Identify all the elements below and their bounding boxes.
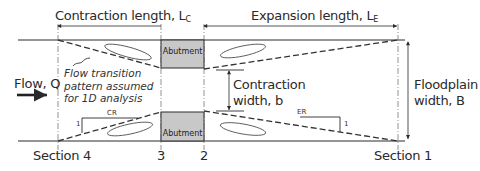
section-1-label: Section 1 <box>374 148 432 163</box>
eddy-ellipse <box>219 41 266 60</box>
section-2-label: 2 <box>200 148 208 163</box>
transition-note-line: Flow transition <box>64 67 154 80</box>
cr-slope-one: 1 <box>76 120 80 128</box>
contraction-length-label: Contraction length, LC <box>55 8 191 24</box>
expansion-length-text: Expansion length, L <box>251 8 373 23</box>
contraction-width-label: Contraction width, b <box>233 77 305 109</box>
er-slope-triangle <box>300 117 340 132</box>
eddy-ellipse <box>104 41 153 63</box>
floodplain-width-label: Floodplain width, B <box>414 77 478 109</box>
er-label: ER <box>297 108 306 116</box>
contraction-length-text: Contraction length, L <box>55 8 186 23</box>
floodplain-width-line: width, B <box>414 93 478 109</box>
transition-note-line: pattern assumed <box>64 80 154 93</box>
contraction-width-line: width, b <box>233 93 305 109</box>
flow-label: Flow, Q <box>14 76 60 91</box>
contraction-length-subscript: C <box>186 15 191 24</box>
expansion-length-subscript: E <box>373 15 378 24</box>
floodplain-width-line: Floodplain <box>414 77 478 93</box>
eddy-ellipse <box>106 119 153 138</box>
note-leader <box>73 58 90 66</box>
abutment-bottom-label: Abutment <box>161 129 204 138</box>
er-slope-one: 1 <box>344 120 348 128</box>
contraction-width-line: Contraction <box>233 77 305 93</box>
abutment-top-label: Abutment <box>161 47 204 56</box>
eddy-ellipse <box>219 120 266 138</box>
section-3-label: 3 <box>157 148 165 163</box>
transition-note: Flow transition pattern assumed for 1D a… <box>64 67 154 105</box>
cr-label: CR <box>107 109 117 117</box>
transition-note-line: for 1D analysis <box>64 92 154 105</box>
section-4-label: Section 4 <box>33 148 91 163</box>
expansion-length-label: Expansion length, LE <box>251 8 378 24</box>
